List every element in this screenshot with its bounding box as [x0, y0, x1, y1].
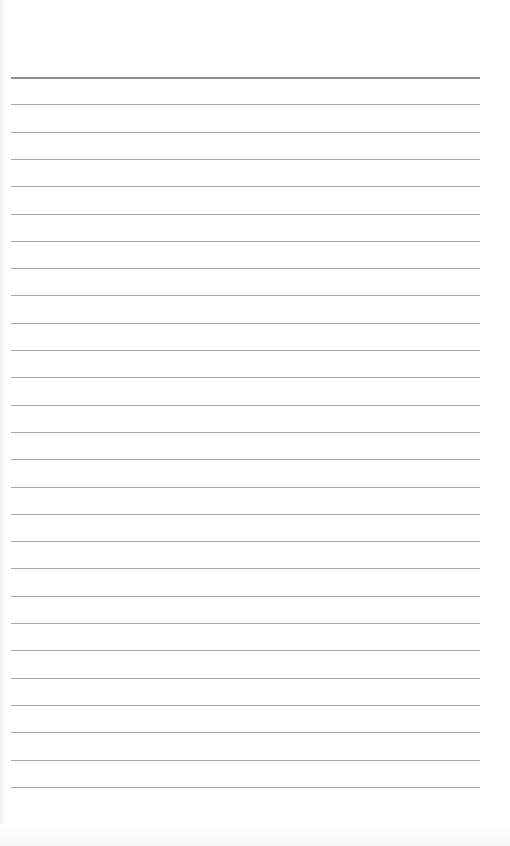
ruled-line — [11, 705, 480, 706]
ruled-line — [11, 596, 480, 597]
ruled-line — [11, 295, 480, 296]
page-bottom-shade — [0, 824, 510, 846]
ruled-line — [11, 760, 480, 761]
ruled-line — [11, 678, 480, 679]
ruled-line — [11, 623, 480, 624]
ruled-line — [11, 650, 480, 651]
ruled-line — [11, 514, 480, 515]
page-left-edge — [0, 0, 6, 846]
ruled-line — [11, 432, 480, 433]
ruled-line — [11, 214, 480, 215]
ruled-line — [11, 159, 480, 160]
ruled-line — [11, 132, 480, 133]
ruled-line — [11, 405, 480, 406]
ruled-line — [11, 77, 480, 79]
ruled-line — [11, 350, 480, 351]
ruled-line — [11, 787, 480, 788]
ruled-line — [11, 268, 480, 269]
ruled-line — [11, 241, 480, 242]
ruled-line — [11, 568, 480, 569]
ruled-line — [11, 541, 480, 542]
ruled-line — [11, 186, 480, 187]
ruled-line — [11, 487, 480, 488]
ruled-line — [11, 732, 480, 733]
ruled-line — [11, 377, 480, 378]
ruled-line — [11, 459, 480, 460]
ruled-line — [11, 104, 480, 105]
ruled-line — [11, 323, 480, 324]
